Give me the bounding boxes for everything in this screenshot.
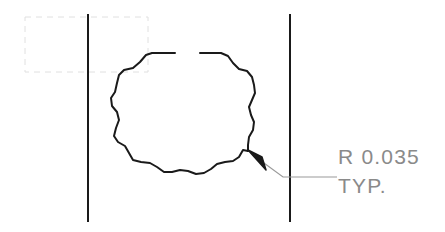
polygon-outline-segment-left [111, 53, 248, 174]
cad-drawing-canvas: R 0.035 TYP. [0, 0, 445, 232]
radius-callout-text: R 0.035 [338, 145, 420, 168]
leader-arrowhead-icon [248, 150, 266, 170]
polygon-outline-segment-right [200, 53, 255, 151]
leader-line [253, 155, 337, 177]
technical-drawing-svg: R 0.035 TYP. [0, 0, 445, 232]
construction-rectangle [25, 17, 148, 72]
typical-callout-text: TYP. [338, 174, 387, 197]
